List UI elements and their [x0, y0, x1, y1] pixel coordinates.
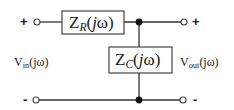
- vout-label: Vout(jω): [180, 56, 219, 71]
- zr-omega: ω: [97, 13, 108, 32]
- output-plus-terminal: [181, 19, 187, 25]
- input-plus-sign: +: [20, 15, 28, 28]
- output-minus-sign: -: [193, 93, 197, 106]
- vin-symbol: V: [14, 55, 23, 69]
- zr-paren-close: ): [108, 13, 114, 32]
- vin-label: Vin(jω): [14, 56, 48, 71]
- circuit-diagram: + - + - ZR(jω) ZC(jω) Vin(jω) Vout(jω): [0, 0, 234, 110]
- zr-label: ZR(jω): [69, 14, 114, 33]
- top-junction-dot: [136, 19, 143, 26]
- vout-subscript: out: [189, 61, 200, 70]
- zc-omega: ω: [144, 50, 155, 69]
- input-minus-terminal: [33, 97, 39, 103]
- zc-symbol: Z: [115, 50, 125, 69]
- vout-symbol: V: [180, 55, 189, 69]
- zc-subscript: C: [125, 58, 133, 71]
- input-plus-terminal: [34, 19, 40, 25]
- zc-paren-close: ): [155, 50, 161, 69]
- zr-symbol: Z: [69, 13, 79, 32]
- zc-label: ZC(jω): [115, 51, 160, 70]
- vin-arg: (jω): [29, 55, 48, 69]
- input-minus-sign: -: [23, 93, 27, 106]
- output-plus-sign: +: [192, 15, 200, 28]
- vout-arg: (jω): [199, 55, 218, 69]
- output-minus-terminal: [180, 97, 186, 103]
- bottom-junction-dot: [136, 97, 143, 104]
